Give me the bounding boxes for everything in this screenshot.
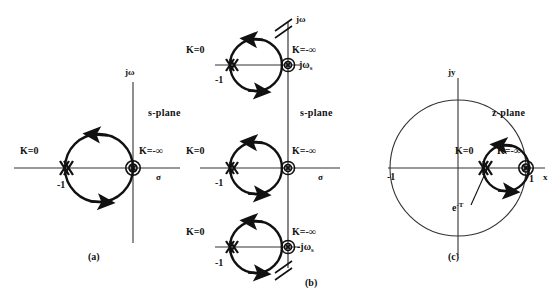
panel-b-upper-frequency-sub: s	[310, 64, 313, 72]
panel-b-mid-arrowhead-bottom	[248, 194, 262, 195]
figure-canvas: jω s-plane K=0 -1 K=-∞ σ (a) jω K=0 -1 K…	[0, 0, 558, 299]
panel-b-upper-k-infinity-label: K=-∞	[292, 45, 316, 55]
root-locus-figure	[0, 0, 558, 299]
panel-c-caption: (c)	[448, 252, 459, 262]
panel-a-k-zero-label: K=0	[20, 146, 38, 156]
panel-b-upper-k-zero-label: K=0	[186, 45, 204, 55]
panel-a-jomega-axis-label: jω	[125, 68, 135, 77]
panel-a-arrowhead-bottom	[90, 201, 106, 202]
panel-b-lower-k-zero-label: K=0	[186, 227, 204, 237]
panel-b-sigma-axis-label: σ	[318, 173, 323, 182]
panel-b-mid-arrowhead-top	[249, 142, 263, 143]
panel-c-pole-point-exponent: -T	[456, 201, 463, 209]
panel-b-lower-k-infinity-label: K=-∞	[292, 227, 316, 237]
panel-b-upper-arrowhead-bottom	[248, 91, 262, 92]
panel-c-jy-axis-label: jy	[448, 68, 456, 77]
panel-c-plane-label: z-plane	[492, 108, 525, 118]
panel-a-sigma-axis-label: σ	[156, 173, 161, 182]
panel-b-mid-k-zero-label: K=0	[186, 146, 204, 156]
panel-b-upper-arrowhead-top	[249, 39, 263, 40]
panel-b-lower-arrowhead-bottom	[248, 273, 262, 274]
panel-c-k-zero-label: K=0	[455, 146, 473, 156]
panel-b-graphics	[200, 19, 340, 280]
panel-c-arrowhead-bottom	[498, 191, 511, 192]
panel-b-plane-label: s-plane	[300, 108, 333, 118]
panel-b-upper-frequency-base: jω	[299, 59, 310, 70]
panel-c-graphics	[388, 78, 545, 255]
panel-b-lower-frequency-base: -jω	[297, 241, 311, 252]
panel-b-jomega-axis-label: jω	[296, 15, 306, 24]
panel-a-k-infinity-label: K=-∞	[139, 146, 163, 156]
panel-a-pole-point-label: -1	[57, 180, 65, 190]
panel-b-axis-break-top	[275, 19, 292, 38]
panel-b-upper-pole-point-label: -1	[215, 75, 223, 85]
panel-b-caption: (b)	[305, 278, 317, 288]
panel-c-k-infinity-label: K=-∞	[497, 146, 521, 156]
panel-c-unit-circle-left-label: -1	[387, 172, 395, 182]
panel-c-x-axis-label: x	[543, 173, 548, 182]
panel-b-mid-k-infinity-label: K=-∞	[292, 146, 316, 156]
panel-b-lower-arrowhead-top	[249, 221, 263, 222]
panel-b-lower-pole-point-label: -1	[215, 258, 223, 268]
panel-a-arrowhead-top	[92, 134, 108, 135]
panel-c-unit-circle-right-label: 1	[529, 174, 534, 184]
panel-b-upper-frequency-label: jωs	[299, 60, 312, 70]
panel-c-leader-line	[471, 176, 484, 205]
panel-b-lower-frequency-sub: s	[311, 246, 314, 254]
panel-a-plane-label: s-plane	[148, 108, 181, 118]
panel-a-caption: (a)	[88, 252, 100, 262]
panel-c-pole-point-label: e-T	[452, 203, 463, 213]
panel-b-mid-pole-point-label: -1	[215, 178, 223, 188]
panel-b-axis-break-bottom	[275, 261, 292, 280]
panel-b-lower-frequency-label: -jωs	[297, 242, 314, 252]
